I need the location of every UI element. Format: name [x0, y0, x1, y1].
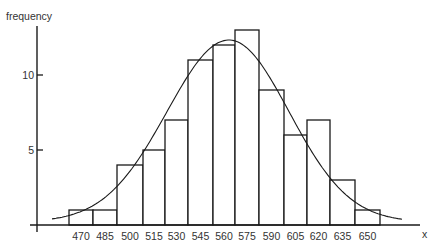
- histogram-chart: 510 470485500515530545560575590605620635…: [0, 0, 445, 249]
- x-tick-label: 470: [72, 230, 90, 242]
- x-tick-label: 530: [168, 230, 186, 242]
- x-tick-label: 590: [263, 230, 281, 242]
- x-tick-label: 620: [310, 230, 328, 242]
- histogram-bar: [213, 45, 235, 225]
- x-tick-label: 560: [215, 230, 233, 242]
- histogram-bar: [165, 120, 188, 225]
- x-tick-label: 485: [96, 230, 114, 242]
- histogram-bar: [117, 165, 143, 225]
- histogram-bars: [69, 30, 380, 225]
- histogram-bar: [188, 60, 213, 225]
- histogram-bar: [143, 150, 165, 225]
- x-tick-label: 545: [192, 230, 210, 242]
- histogram-bar: [330, 180, 355, 225]
- histogram-bar: [69, 210, 93, 225]
- x-axis-label: x: [422, 228, 428, 240]
- y-axis-label: frequency: [6, 10, 53, 22]
- x-tick-labels: 470485500515530545560575590605620635650: [72, 230, 376, 242]
- y-tick-label: 10: [22, 69, 34, 81]
- x-tick-label: 515: [145, 230, 163, 242]
- y-tick-label: 5: [28, 144, 34, 156]
- x-tick-label: 575: [238, 230, 256, 242]
- x-tick-label: 650: [359, 230, 377, 242]
- x-tick-label: 605: [287, 230, 305, 242]
- histogram-bar: [259, 90, 284, 225]
- x-tick-label: 635: [334, 230, 352, 242]
- x-tick-label: 500: [121, 230, 139, 242]
- histogram-bar: [284, 135, 307, 225]
- histogram-bar: [235, 30, 259, 225]
- histogram-bar: [307, 120, 330, 225]
- y-ticks: 510: [22, 69, 43, 156]
- histogram-bar: [355, 210, 380, 225]
- histogram-bar: [93, 210, 117, 225]
